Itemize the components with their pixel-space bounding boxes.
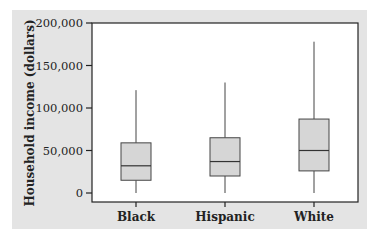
y-tick-label: 50,000 xyxy=(43,144,83,158)
y-tick-label: 0 xyxy=(76,186,83,200)
iqr-box xyxy=(299,119,329,171)
iqr-box xyxy=(121,143,151,180)
y-tick-label: 100,000 xyxy=(35,101,83,115)
iqr-box xyxy=(210,138,240,176)
y-axis: 050,000100,000150,000200,000 xyxy=(35,16,92,200)
x-tick-label: Hispanic xyxy=(195,210,254,224)
x-tick-label: White xyxy=(293,210,334,224)
y-tick-label: 150,000 xyxy=(35,59,83,73)
x-axis: BlackHispanicWhite xyxy=(117,202,334,224)
y-axis-title: Household income (dollars) xyxy=(23,19,37,206)
box-plot: 050,000100,000150,000200,000 BlackHispan… xyxy=(0,0,380,240)
y-tick-label: 200,000 xyxy=(35,16,83,30)
x-tick-label: Black xyxy=(117,210,156,224)
